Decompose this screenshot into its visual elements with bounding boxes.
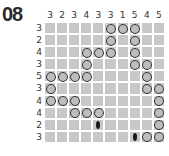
grid-cell[interactable] [80,22,92,34]
circle-cell[interactable] [141,131,153,143]
grid-cell[interactable] [80,95,92,107]
grid-cell[interactable] [68,131,80,143]
grid-cell[interactable] [129,95,141,107]
grid-cell[interactable] [141,119,153,131]
grid-cell[interactable] [92,34,104,46]
grid-cell[interactable] [117,107,129,119]
circle-cell[interactable] [153,107,165,119]
circle-cell[interactable] [129,22,141,34]
grid-cell[interactable] [80,119,92,131]
circle-cell[interactable] [68,95,80,107]
grid-cell[interactable] [44,107,56,119]
grid-cell[interactable] [44,22,56,34]
grid-cell[interactable] [80,82,92,94]
grid-cell[interactable] [56,58,68,70]
grid-cell[interactable] [44,58,56,70]
circle-cell[interactable] [104,46,116,58]
circle-cell[interactable] [117,22,129,34]
grid-cell[interactable] [92,82,104,94]
circle-cell[interactable] [80,58,92,70]
circle-cell[interactable] [153,95,165,107]
grid-cell[interactable] [129,107,141,119]
grid-cell[interactable] [104,82,116,94]
circle-cell[interactable] [129,34,141,46]
grid-cell[interactable] [129,82,141,94]
grid-cell[interactable] [141,107,153,119]
circle-cell[interactable] [129,46,141,58]
grid-cell[interactable] [68,119,80,131]
circle-cell[interactable] [80,70,92,82]
grid-cell[interactable] [141,95,153,107]
circle-cell[interactable] [92,107,104,119]
grid-cell[interactable] [68,82,80,94]
grid-cell[interactable] [44,119,56,131]
circle-cell[interactable] [141,58,153,70]
circle-cell[interactable] [68,107,80,119]
grid-cell[interactable] [104,107,116,119]
grid-cell[interactable] [92,22,104,34]
grid-cell[interactable] [129,119,141,131]
circle-cell[interactable] [56,70,68,82]
grid-cell[interactable] [117,46,129,58]
grid-cell[interactable] [68,34,80,46]
grid-cell[interactable] [153,58,165,70]
grid-cell[interactable] [68,22,80,34]
grid-cell[interactable] [92,131,104,143]
grid-cell[interactable] [117,119,129,131]
circle-cell[interactable] [104,34,116,46]
circle-cell[interactable] [141,70,153,82]
grid-cell[interactable] [117,58,129,70]
circle-cell[interactable] [92,46,104,58]
grid-cell[interactable] [117,131,129,143]
grid-cell[interactable] [92,58,104,70]
circle-cell[interactable] [80,107,92,119]
grid-cell[interactable] [68,46,80,58]
grid-cell[interactable] [104,119,116,131]
circle-cell[interactable] [153,131,165,143]
circle-cell[interactable] [44,95,56,107]
grid-cell[interactable] [56,46,68,58]
circle-cell[interactable] [80,46,92,58]
grid-cell[interactable] [44,34,56,46]
grid-cell[interactable] [44,131,56,143]
grid-cell[interactable] [68,58,80,70]
grid-cell[interactable] [80,131,92,143]
dark-mark-cell[interactable] [92,119,104,131]
grid-cell[interactable] [153,34,165,46]
circle-cell[interactable] [44,70,56,82]
grid-cell[interactable] [153,46,165,58]
circle-cell[interactable] [129,58,141,70]
grid-cell[interactable] [117,70,129,82]
grid-cell[interactable] [56,82,68,94]
dark-mark-cell[interactable] [129,131,141,143]
circle-cell[interactable] [153,119,165,131]
circle-cell[interactable] [104,22,116,34]
grid-cell[interactable] [141,22,153,34]
grid-cell[interactable] [92,95,104,107]
grid-cell[interactable] [117,34,129,46]
circle-cell[interactable] [153,82,165,94]
grid-cell[interactable] [117,82,129,94]
grid-cell[interactable] [141,46,153,58]
grid-cell[interactable] [104,58,116,70]
grid-cell[interactable] [117,95,129,107]
grid-cell[interactable] [56,34,68,46]
grid-cell[interactable] [104,131,116,143]
grid-cell[interactable] [92,70,104,82]
grid-cell[interactable] [44,46,56,58]
grid-cell[interactable] [56,107,68,119]
grid-cell[interactable] [104,95,116,107]
circle-cell[interactable] [68,70,80,82]
grid-cell[interactable] [153,70,165,82]
grid-cell[interactable] [56,22,68,34]
grid-cell[interactable] [56,131,68,143]
grid-cell[interactable] [153,22,165,34]
grid-cell[interactable] [80,34,92,46]
grid-cell[interactable] [104,70,116,82]
circle-cell[interactable] [141,82,153,94]
circle-cell[interactable] [56,95,68,107]
grid-cell[interactable] [141,34,153,46]
grid-cell[interactable] [56,119,68,131]
circle-cell[interactable] [44,82,56,94]
grid-cell[interactable] [129,70,141,82]
